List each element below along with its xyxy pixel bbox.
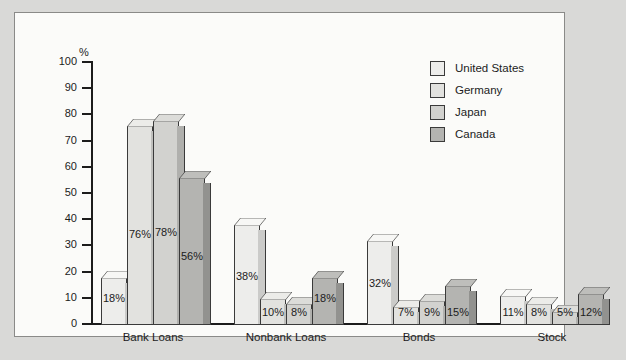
legend-swatch [430, 127, 445, 142]
bar-side-face [469, 291, 477, 325]
bar: 32% [367, 241, 393, 325]
bar-side-face [336, 283, 344, 325]
bar-value-label: 5% [553, 307, 577, 318]
bar-value-label: 8% [287, 307, 311, 318]
bar-value-label: 76% [128, 229, 152, 240]
chart-panel: % 1009080706050403020100 18%76%78%56%38%… [14, 12, 565, 337]
bar-value-label: 9% [420, 307, 444, 318]
bar-top-face [312, 271, 344, 279]
legend-label: United States [455, 62, 524, 74]
bar-top-face [500, 289, 532, 297]
bar-value-label: 8% [527, 307, 551, 318]
legend: United StatesGermanyJapanCanada [430, 59, 524, 147]
plot-area: % 1009080706050403020100 18%76%78%56%38%… [15, 13, 566, 338]
bar-top-face [578, 287, 610, 295]
bar-top-face [526, 297, 558, 305]
legend-swatch [430, 83, 445, 98]
bar-value-label: 56% [180, 251, 204, 262]
bar: 8% [286, 304, 312, 325]
legend-item[interactable]: Japan [430, 103, 524, 121]
bar: 76% [127, 126, 153, 325]
bar: 7% [393, 307, 419, 325]
bar: 78% [153, 121, 179, 325]
bar-value-label: 11% [501, 307, 525, 318]
bar-top-face [179, 171, 211, 179]
legend-item[interactable]: United States [430, 59, 524, 77]
bar-side-face [203, 183, 211, 325]
bar-value-label: 7% [394, 307, 418, 318]
bar-value-label: 32% [368, 278, 392, 289]
bar: 9% [419, 301, 445, 325]
bar-top-face [445, 279, 477, 287]
bar-top-face [234, 218, 266, 226]
bar: 15% [445, 286, 471, 325]
bar-value-label: 18% [313, 293, 337, 304]
legend-swatch [430, 105, 445, 120]
bar: 5% [552, 312, 578, 325]
bar-value-label: 38% [235, 271, 259, 282]
legend-label: Canada [455, 128, 495, 140]
page-background: % 1009080706050403020100 18%76%78%56%38%… [0, 0, 626, 360]
bar: 38% [234, 225, 260, 325]
bar-value-label: 18% [102, 293, 126, 304]
bar: 8% [526, 304, 552, 325]
bar: 18% [101, 278, 127, 325]
bar: 11% [500, 296, 526, 325]
category-label: Nonbank Loans [216, 331, 356, 343]
bar: 12% [578, 294, 604, 325]
bar: 18% [312, 278, 338, 325]
bar-value-label: 78% [154, 227, 178, 238]
bar-value-label: 15% [446, 307, 470, 318]
bar-top-face [367, 234, 399, 242]
legend-item[interactable]: Canada [430, 125, 524, 143]
bar-top-face [153, 114, 185, 122]
bar-value-label: 12% [579, 307, 603, 318]
bar-value-label: 10% [261, 307, 285, 318]
category-label: Bank Loans [83, 331, 223, 343]
bar: 56% [179, 178, 205, 325]
bar: 10% [260, 299, 286, 325]
category-label: Stock [482, 331, 622, 343]
legend-label: Germany [455, 84, 502, 96]
legend-swatch [430, 61, 445, 76]
legend-label: Japan [455, 106, 486, 118]
bar-side-face [602, 299, 610, 325]
legend-item[interactable]: Germany [430, 81, 524, 99]
category-label: Bonds [349, 331, 489, 343]
